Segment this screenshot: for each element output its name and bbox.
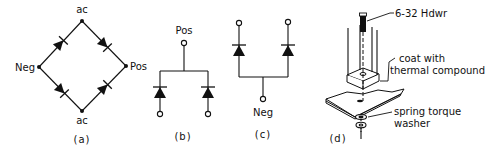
- panel-d-mounting: 6-32 Hdwr coat with thermal compound spr…: [326, 8, 485, 144]
- panel-c-common-anode: Neg (c): [232, 19, 295, 140]
- label-neg: Neg: [253, 107, 273, 118]
- panel-c-wires: [239, 25, 288, 96]
- bridge-nodes: [37, 19, 128, 113]
- label-pos: Pos: [175, 25, 192, 36]
- label-neg: Neg: [15, 62, 35, 73]
- diode-icon: [232, 45, 246, 56]
- caption-c: (c): [255, 129, 271, 140]
- label-pos: Pos: [130, 61, 147, 72]
- callout-thermal-compound: thermal compound: [390, 65, 485, 76]
- rectifier-diagram: ac Neg Pos ac (a) Pos (b): [0, 0, 499, 154]
- panel-a-bridge: ac Neg Pos ac (a): [15, 4, 147, 145]
- panel-b-wires: [160, 46, 208, 111]
- callout-spring-torque: spring torque: [394, 106, 461, 117]
- caption-a: (a): [74, 134, 91, 145]
- diode-icon: [153, 87, 167, 98]
- callout-6-32-hardware: 6-32 Hdwr: [395, 8, 448, 19]
- callout-coat-with: coat with: [399, 53, 445, 64]
- caption-d: (d): [329, 133, 346, 144]
- callout-washer: washer: [394, 118, 431, 129]
- panel-b-common-cathode: Pos (b): [153, 25, 215, 142]
- bridge-wires: [39, 21, 126, 111]
- diode-icon: [281, 45, 295, 56]
- label-ac-top: ac: [76, 4, 88, 15]
- mounting-hole-icon: [357, 100, 363, 103]
- caption-b: (b): [174, 131, 191, 142]
- diode-icon: [201, 87, 215, 98]
- label-ac-bottom: ac: [76, 115, 88, 126]
- washer-icon: [356, 115, 367, 140]
